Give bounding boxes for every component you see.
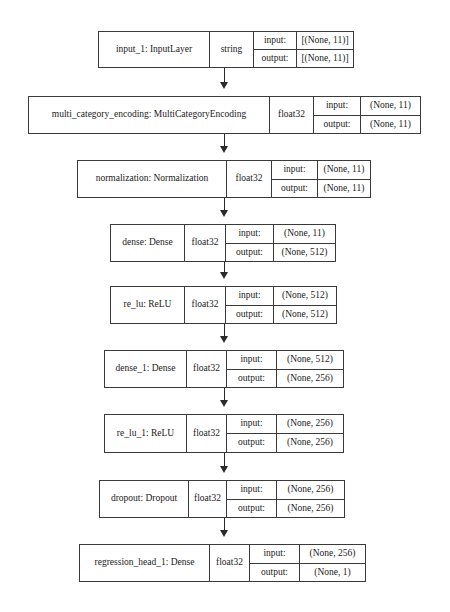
arrowhead-icon	[220, 530, 228, 537]
layer-input-shape-dropout: (None, 256)	[276, 481, 344, 499]
layer-io-table-dense: input:(None, 11)output:(None, 512)	[225, 225, 335, 261]
layer-node-re_lu_1: re_lu_1: ReLUfloat32input:(None, 256)out…	[104, 414, 344, 453]
layer-output-label: output:	[227, 370, 276, 388]
layer-input-row-normalization: input:(None, 11)	[272, 161, 370, 179]
layer-output-row-input_1: output:[(None, 11)]	[254, 49, 353, 67]
layer-node-multi_category_encoding: multi_category_encoding: MultiCategoryEn…	[28, 96, 421, 134]
layer-io-table-regression_head_1: input:(None, 256)output:(None, 1)	[249, 545, 365, 581]
layer-name-dense_1: dense_1: Dense	[105, 351, 186, 387]
layer-input-label: input:	[250, 545, 299, 563]
layer-input-row-dense: input:(None, 11)	[226, 225, 335, 243]
arrowhead-icon	[220, 146, 228, 153]
layer-input-label: input:	[227, 351, 276, 369]
layer-node-dropout: dropout: Dropoutfloat32input:(None, 256)…	[99, 480, 345, 518]
layer-dtype-dense: float32	[184, 225, 225, 261]
layer-input-label: input:	[254, 32, 296, 49]
layer-output-shape-multi_category_encoding: (None, 11)	[360, 116, 420, 134]
layer-node-regression_head_1: regression_head_1: Densefloat32input:(No…	[79, 544, 366, 582]
edge-input_1-to-multi_category_encoding	[224, 68, 225, 83]
layer-io-table-dropout: input:(None, 256)output:(None, 256)	[226, 481, 344, 517]
layer-input-shape-dense_1: (None, 512)	[276, 351, 343, 369]
layer-dtype-dense_1: float32	[186, 351, 226, 387]
layer-node-input_1: input_1: InputLayerstringinput:[(None, 1…	[98, 31, 354, 68]
layer-input-label: input:	[227, 481, 276, 499]
layer-node-dense_1: dense_1: Densefloat32input:(None, 512)ou…	[104, 350, 344, 388]
layer-io-table-dense_1: input:(None, 512)output:(None, 256)	[226, 351, 343, 387]
arrowhead-icon	[220, 210, 228, 217]
layer-node-re_lu: re_lu: ReLUfloat32input:(None, 512)outpu…	[110, 286, 337, 324]
layer-input-row-input_1: input:[(None, 11)]	[254, 32, 353, 49]
layer-dtype-normalization: float32	[226, 161, 271, 197]
layer-name-normalization: normalization: Normalization	[78, 161, 226, 197]
layer-name-dropout: dropout: Dropout	[100, 481, 188, 517]
layer-dtype-input_1: string	[209, 32, 253, 67]
layer-output-label: output:	[226, 306, 273, 324]
layer-output-shape-dense_1: (None, 256)	[276, 370, 343, 388]
layer-output-label: output:	[314, 116, 360, 134]
layer-input-shape-dense: (None, 11)	[273, 225, 335, 243]
layer-output-row-dense_1: output:(None, 256)	[227, 369, 343, 388]
layer-output-shape-dense: (None, 512)	[273, 244, 335, 262]
layer-input-row-regression_head_1: input:(None, 256)	[250, 545, 365, 563]
layer-output-row-multi_category_encoding: output:(None, 11)	[314, 115, 420, 134]
layer-input-shape-input_1: [(None, 11)]	[296, 32, 353, 49]
layer-io-table-re_lu: input:(None, 512)output:(None, 512)	[225, 287, 336, 323]
layer-input-row-multi_category_encoding: input:(None, 11)	[314, 97, 420, 115]
layer-input-shape-re_lu: (None, 512)	[273, 287, 336, 305]
layer-input-row-re_lu: input:(None, 512)	[226, 287, 336, 305]
layer-input-shape-multi_category_encoding: (None, 11)	[360, 97, 420, 115]
layer-io-table-re_lu_1: input:(None, 256)output:(None, 256)	[226, 415, 343, 452]
layer-name-re_lu_1: re_lu_1: ReLU	[105, 415, 186, 452]
layer-output-label: output:	[227, 434, 276, 452]
arrowhead-icon	[220, 466, 228, 473]
layer-output-label: output:	[227, 500, 276, 518]
layer-name-multi_category_encoding: multi_category_encoding: MultiCategoryEn…	[29, 97, 269, 133]
layer-dtype-re_lu: float32	[184, 287, 225, 323]
layer-output-row-normalization: output:(None, 11)	[272, 179, 370, 198]
layer-node-dense: dense: Densefloat32input:(None, 11)outpu…	[110, 224, 336, 262]
layer-output-shape-re_lu: (None, 512)	[273, 306, 336, 324]
layer-output-row-re_lu: output:(None, 512)	[226, 305, 336, 324]
layer-input-shape-regression_head_1: (None, 256)	[299, 545, 365, 563]
layer-output-shape-normalization: (None, 11)	[317, 180, 370, 198]
layer-output-label: output:	[250, 564, 299, 582]
layer-output-label: output:	[254, 50, 296, 67]
layer-io-table-multi_category_encoding: input:(None, 11)output:(None, 11)	[313, 97, 420, 133]
layer-output-shape-input_1: [(None, 11)]	[296, 50, 353, 67]
layer-dtype-multi_category_encoding: float32	[269, 97, 313, 133]
layer-output-shape-dropout: (None, 256)	[276, 500, 344, 518]
layer-io-table-input_1: input:[(None, 11)]output:[(None, 11)]	[253, 32, 353, 67]
layer-input-label: input:	[227, 415, 276, 433]
layer-input-label: input:	[314, 97, 360, 115]
layer-name-regression_head_1: regression_head_1: Dense	[80, 545, 209, 581]
layer-output-row-dropout: output:(None, 256)	[227, 499, 344, 518]
layer-output-label: output:	[272, 180, 317, 198]
edge-re_lu_1-to-dropout	[224, 453, 225, 467]
layer-input-row-dropout: input:(None, 256)	[227, 481, 344, 499]
layer-name-input_1: input_1: InputLayer	[99, 32, 209, 67]
layer-dtype-dropout: float32	[188, 481, 226, 517]
arrowhead-icon	[220, 272, 228, 279]
layer-input-row-re_lu_1: input:(None, 256)	[227, 415, 343, 433]
layer-input-shape-re_lu_1: (None, 256)	[276, 415, 343, 433]
layer-dtype-regression_head_1: float32	[209, 545, 249, 581]
arrowhead-icon	[220, 400, 228, 407]
layer-input-row-dense_1: input:(None, 512)	[227, 351, 343, 369]
layer-output-label: output:	[226, 244, 273, 262]
layer-output-row-re_lu_1: output:(None, 256)	[227, 433, 343, 452]
model-architecture-diagram: input_1: InputLayerstringinput:[(None, 1…	[0, 0, 450, 612]
layer-name-dense: dense: Dense	[111, 225, 184, 261]
layer-input-label: input:	[226, 287, 273, 305]
layer-node-normalization: normalization: Normalizationfloat32input…	[77, 160, 371, 198]
arrowhead-icon	[220, 336, 228, 343]
layer-input-label: input:	[272, 161, 317, 179]
layer-output-row-regression_head_1: output:(None, 1)	[250, 563, 365, 582]
layer-name-re_lu: re_lu: ReLU	[111, 287, 184, 323]
arrowhead-icon	[220, 82, 228, 89]
layer-output-row-dense: output:(None, 512)	[226, 243, 335, 262]
layer-io-table-normalization: input:(None, 11)output:(None, 11)	[271, 161, 370, 197]
layer-dtype-re_lu_1: float32	[186, 415, 226, 452]
layer-input-shape-normalization: (None, 11)	[317, 161, 370, 179]
layer-input-label: input:	[226, 225, 273, 243]
layer-output-shape-re_lu_1: (None, 256)	[276, 434, 343, 452]
